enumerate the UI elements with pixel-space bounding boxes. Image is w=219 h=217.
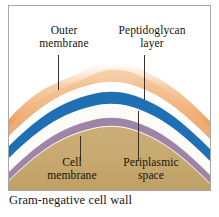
label-periplasmic-space-line2: space	[112, 169, 190, 182]
label-cell-membrane-line1: Cell	[62, 156, 82, 168]
gram-negative-cell-wall-figure: Outer membrane Peptidoglycan layer Cell …	[0, 0, 219, 217]
leader-line-peptidoglycan	[144, 55, 145, 100]
leader-line-periplasmic-space	[138, 111, 139, 161]
label-peptidoglycan-line2: layer	[110, 37, 194, 50]
label-periplasmic-space-line1: Periplasmic	[123, 156, 178, 168]
label-cell-membrane: Cell membrane	[38, 156, 106, 181]
leader-line-outer-membrane	[58, 55, 59, 90]
figure-caption: Gram-negative cell wall	[9, 193, 209, 208]
label-outer-membrane: Outer membrane	[31, 24, 97, 49]
label-cell-membrane-line2: membrane	[38, 169, 106, 182]
label-peptidoglycan-line1: Peptidoglycan	[118, 24, 185, 36]
label-peptidoglycan-layer: Peptidoglycan layer	[110, 24, 194, 49]
label-outer-membrane-line1: Outer	[51, 24, 78, 36]
label-periplasmic-space: Periplasmic space	[112, 156, 190, 181]
label-outer-membrane-line2: membrane	[31, 37, 97, 50]
